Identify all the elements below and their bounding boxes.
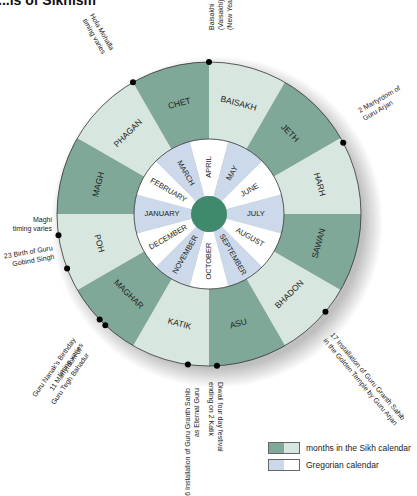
legend-label: Gregorian calendar <box>306 460 379 470</box>
event-label: 2 Martyrdom ofGuru Arjan <box>357 84 406 122</box>
event-label: Baisakhi(Vaisakhi)(New Year) <box>208 0 234 30</box>
event-label: 23 Birth of GuruGobind Singh <box>3 244 55 269</box>
event-marker-dot <box>97 317 103 323</box>
event-label: Hola Mohallatiming varies <box>80 12 115 56</box>
gregorian-month-label: JULY <box>247 209 265 218</box>
svg-text:timing varies: timing varies <box>13 225 53 233</box>
event-marker-dot <box>185 362 191 368</box>
svg-text:(New Year): (New Year) <box>226 0 234 30</box>
legend: months in the Sikh calendar Gregorian ca… <box>268 441 411 475</box>
event-marker-dot <box>130 79 136 85</box>
event-marker-dot <box>102 322 108 328</box>
legend-item-gregorian: Gregorian calendar <box>268 458 411 472</box>
event-marker-dot <box>55 232 61 238</box>
gregorian-swatch <box>268 459 300 471</box>
svg-text:(Vaisakhi): (Vaisakhi) <box>217 0 225 30</box>
sikh-swatch <box>268 442 300 454</box>
gregorian-month-label: APRIL <box>204 156 213 178</box>
legend-label: months in the Sikh calendar <box>306 443 411 453</box>
event-marker-dot <box>340 140 346 146</box>
event-marker-dot <box>322 309 328 315</box>
gregorian-month-label: OCTOBER <box>204 242 213 280</box>
legend-item-sikh: months in the Sikh calendar <box>268 441 411 455</box>
svg-text:Maghi: Maghi <box>33 216 53 224</box>
event-marker-dot <box>206 59 212 65</box>
svg-text:in the Golden Temple by Guru A: in the Golden Temple by Guru Arjan <box>322 337 399 427</box>
event-label: 17 Installation of Guru Granth Sahibin t… <box>322 331 407 428</box>
svg-text:as Eternal Guru: as Eternal Guru <box>193 388 200 437</box>
svg-text:6 Installation of Guru Granth: 6 Installation of Guru Granth Sahib <box>184 388 191 496</box>
event-marker-dot <box>64 265 70 271</box>
svg-text:Baisakhi: Baisakhi <box>208 3 215 30</box>
event-label: Diwali four day festivalending on 2 Kati… <box>207 382 224 452</box>
event-label: Maghitiming varies <box>13 216 53 233</box>
center-disc <box>191 196 227 232</box>
event-marker-dot <box>214 363 220 369</box>
svg-text:Diwali four day festival: Diwali four day festival <box>216 382 224 452</box>
gregorian-month-label: JANUARY <box>145 209 180 218</box>
sikh-calendar-wheel: BAISAKHJETHHARHSAWANBHADONASUKATIKMAGHAR… <box>0 0 417 496</box>
svg-text:17 Installation of Guru Granth: 17 Installation of Guru Granth Sahib <box>329 331 406 421</box>
svg-text:ending on 2 Katik: ending on 2 Katik <box>207 382 215 437</box>
event-label: 6 Installation of Guru Granth Sahibas Et… <box>184 388 200 496</box>
